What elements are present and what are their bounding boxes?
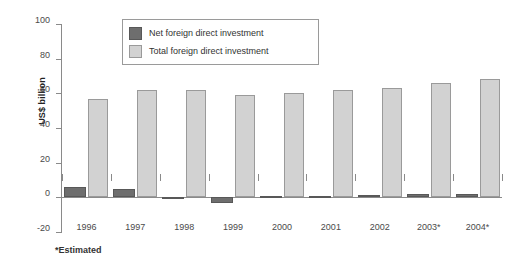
x-axis-tick (306, 174, 307, 181)
bar-net-2001 (309, 196, 331, 198)
bar-total-1997 (137, 90, 157, 197)
x-axis-label: 1999 (209, 222, 258, 232)
x-axis-label: 2004* (453, 222, 502, 232)
footnote-estimated: *Estimated (55, 245, 102, 255)
x-axis-tick (404, 174, 405, 181)
legend-label-net: Net foreign direct investment (149, 28, 264, 38)
bar-net-1999 (211, 197, 233, 202)
bar-group (404, 24, 453, 232)
x-axis-label: 2002 (355, 222, 404, 232)
x-axis-tick (453, 174, 454, 181)
y-axis-title: US$ billion (37, 61, 47, 141)
x-axis-label: 1997 (111, 222, 160, 232)
bar-net-1996 (64, 187, 86, 197)
bar-net-2000 (260, 196, 282, 198)
y-axis-tick-label: 60 (4, 89, 50, 90)
y-axis-tick-label: 100 (4, 20, 50, 21)
x-axis-tick (355, 174, 356, 181)
bar-group (355, 24, 404, 232)
bar-total-2000 (284, 93, 304, 197)
legend-item-net: Net foreign direct investment (129, 24, 312, 42)
bar-net-2002 (358, 195, 380, 197)
legend-swatch-net-icon (129, 27, 142, 40)
legend-label-total: Total foreign direct investment (149, 46, 269, 56)
y-axis-tick-label: 40 (4, 124, 50, 125)
y-axis-tick-label: 80 (4, 55, 50, 56)
legend-swatch-total-icon (129, 45, 142, 58)
bar-total-1996 (88, 99, 108, 198)
y-axis-tick-label: 20 (4, 159, 50, 160)
bar-total-1999 (235, 95, 255, 197)
bar-net-2003 (407, 194, 429, 197)
bar-total-2002 (382, 88, 402, 197)
x-axis-tick (258, 174, 259, 181)
x-axis-tick (160, 174, 161, 181)
x-axis-label: 1996 (62, 222, 111, 232)
bar-total-2004 (480, 79, 500, 197)
bar-total-1998 (186, 90, 206, 197)
y-axis-tick (56, 232, 62, 233)
x-axis-label: 2001 (306, 222, 355, 232)
x-axis-tick (209, 174, 210, 181)
bar-chart: US$ billion 100806040200-20 199619971998… (0, 0, 509, 278)
bar-total-2001 (333, 90, 353, 197)
legend-item-total: Total foreign direct investment (129, 42, 312, 60)
y-axis-tick-label: -20 (4, 228, 50, 229)
bar-net-2004 (456, 194, 478, 197)
x-axis-label: 1998 (160, 222, 209, 232)
bar-group (453, 24, 502, 232)
x-axis-label: 2003* (404, 222, 453, 232)
bar-total-2003 (431, 83, 451, 197)
x-axis-tick (502, 174, 503, 181)
x-axis-label: 2000 (258, 222, 307, 232)
x-axis-tick (62, 174, 63, 181)
bar-group (62, 24, 111, 232)
y-axis-tick-label: 0 (4, 193, 50, 194)
x-axis-tick (111, 174, 112, 181)
bar-net-1998 (162, 197, 184, 199)
bar-net-1997 (113, 189, 135, 198)
chart-legend: Net foreign direct investment Total fore… (122, 19, 319, 65)
